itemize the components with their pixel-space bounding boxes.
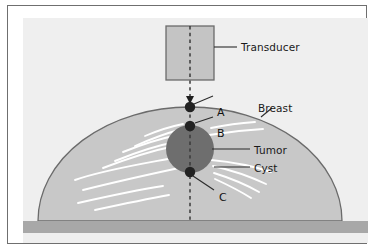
figure-frame: Transducer Breast Tumor Cyst A B C	[7, 5, 367, 244]
label-breast: Breast	[258, 103, 292, 114]
label-transducer: Transducer	[241, 42, 300, 53]
label-point-b: B	[217, 128, 225, 139]
chest-wall-strip	[23, 221, 368, 233]
point-marker-b	[185, 121, 195, 131]
point-marker-a	[185, 102, 195, 112]
breast-ultrasound-diagram	[23, 18, 368, 243]
figure-screenshot: Transducer Breast Tumor Cyst A B C	[0, 0, 375, 251]
point-marker-c	[185, 167, 195, 177]
leader-point-a	[194, 96, 213, 104]
label-point-a: A	[217, 107, 225, 118]
illustration-canvas: Transducer Breast Tumor Cyst A B C	[23, 18, 368, 243]
label-cyst: Cyst	[254, 163, 278, 174]
label-tumor: Tumor	[254, 145, 287, 156]
label-point-c: C	[219, 192, 227, 203]
